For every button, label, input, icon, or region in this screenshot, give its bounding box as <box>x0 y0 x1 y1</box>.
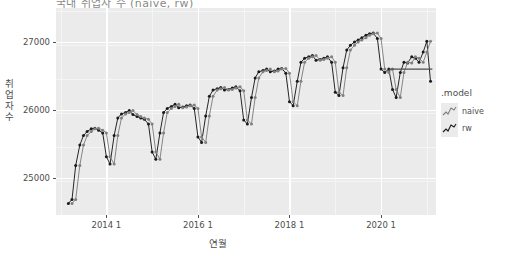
x-axis-label: 연월 <box>0 236 436 250</box>
data-point <box>151 150 154 153</box>
data-point <box>212 95 215 98</box>
legend-item-rw[interactable]: rw <box>441 120 509 137</box>
y-axis-tick-mark <box>53 42 56 43</box>
data-point <box>322 58 325 61</box>
data-point <box>200 141 203 144</box>
data-point <box>269 70 272 73</box>
data-point <box>105 155 108 158</box>
data-point <box>288 100 291 103</box>
data-point <box>86 134 89 137</box>
data-point <box>101 129 104 132</box>
data-point <box>219 87 222 90</box>
legend-label: naive <box>462 107 484 116</box>
data-point <box>246 118 249 121</box>
data-point <box>429 40 432 43</box>
data-point <box>380 37 383 40</box>
data-point <box>315 59 318 62</box>
y-axis-label: 취업자수 <box>2 78 16 122</box>
data-point <box>147 118 150 121</box>
data-point <box>193 107 196 110</box>
data-point <box>303 61 306 64</box>
data-point <box>337 91 340 94</box>
data-point <box>78 164 81 167</box>
data-point <box>181 106 184 109</box>
data-point <box>372 32 375 35</box>
data-point <box>250 96 253 99</box>
data-point <box>383 71 386 74</box>
data-point <box>257 76 260 79</box>
data-point <box>177 106 180 109</box>
data-point <box>82 144 85 147</box>
data-point <box>292 104 295 107</box>
data-point <box>387 71 390 74</box>
data-point <box>296 80 299 83</box>
data-point <box>303 57 306 60</box>
data-point <box>273 70 276 73</box>
data-point <box>78 144 81 147</box>
data-point <box>139 115 142 118</box>
data-point <box>334 91 337 94</box>
data-point <box>158 131 161 134</box>
data-point <box>395 88 398 91</box>
data-point <box>170 107 173 110</box>
legend: .model naiverw <box>441 88 509 137</box>
data-point <box>208 114 211 117</box>
data-point <box>345 66 348 69</box>
data-point <box>399 96 402 99</box>
data-point <box>196 135 199 138</box>
data-point <box>158 158 161 161</box>
data-point <box>101 131 104 134</box>
data-point <box>330 61 333 64</box>
data-point <box>284 67 287 70</box>
data-point <box>208 95 211 98</box>
data-point <box>315 54 318 57</box>
data-point <box>120 116 123 119</box>
legend-item-naive[interactable]: naive <box>441 103 509 120</box>
data-point <box>234 87 237 90</box>
data-point <box>223 86 226 89</box>
data-point <box>414 55 417 58</box>
data-point <box>429 80 432 83</box>
data-point <box>162 131 165 134</box>
series-layer <box>56 8 436 215</box>
data-point <box>261 70 264 73</box>
data-point <box>422 51 425 54</box>
data-point <box>239 89 242 92</box>
data-point <box>357 40 360 43</box>
data-point <box>86 130 89 133</box>
data-point <box>131 109 134 112</box>
data-point <box>143 116 146 119</box>
data-point <box>425 51 428 54</box>
data-point <box>399 71 402 74</box>
data-point <box>90 127 93 130</box>
data-point <box>277 70 280 73</box>
data-point <box>97 127 100 130</box>
y-axis-tick-label: 27000 <box>14 37 50 47</box>
data-point <box>257 70 260 73</box>
data-point <box>113 163 116 166</box>
data-point <box>349 44 352 47</box>
series-line-naive <box>72 33 430 203</box>
data-point <box>334 61 337 64</box>
legend-title: .model <box>441 88 509 98</box>
data-point <box>376 32 379 35</box>
data-point <box>402 71 405 74</box>
data-point <box>204 114 207 117</box>
data-point <box>368 34 371 37</box>
x-axis-tick-mark <box>381 215 382 218</box>
data-point <box>402 61 405 64</box>
data-point <box>116 134 119 137</box>
data-point <box>174 105 177 108</box>
data-point <box>353 40 356 43</box>
data-point <box>418 61 421 64</box>
data-point <box>166 107 169 110</box>
data-point <box>74 164 77 167</box>
x-axis-tick-mark <box>198 215 199 218</box>
data-point <box>212 89 215 92</box>
data-point <box>136 113 139 116</box>
data-point <box>196 107 199 110</box>
data-point <box>120 112 123 115</box>
data-point <box>242 89 245 92</box>
data-point <box>422 61 425 64</box>
data-point <box>383 68 386 71</box>
